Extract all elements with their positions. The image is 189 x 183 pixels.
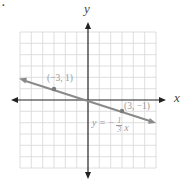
arrow-up-icon: [85, 22, 91, 29]
x-axis-label: x: [174, 90, 180, 106]
equation-minus: −: [109, 117, 115, 128]
arrow-right-icon: [159, 97, 166, 103]
arrow-down-icon: [85, 172, 91, 179]
line-arrow-right-icon: [148, 118, 156, 124]
equation-fraction: 1 3: [116, 117, 122, 134]
y-axis-label: y: [84, 1, 90, 17]
coordinate-plane: [0, 0, 189, 183]
problem-marker: ·: [1, 0, 6, 14]
arrow-left-icon: [11, 97, 18, 103]
point-label-neg3-1: (−3, 1): [47, 73, 73, 83]
equation-label: y = − 1 3 x: [92, 111, 129, 134]
fraction-denominator: 3: [117, 126, 121, 134]
equation-var: x: [124, 122, 128, 133]
equation-lhs: y =: [92, 117, 106, 128]
point-neg3-1: [52, 87, 56, 91]
point-label-3-neg1: (3, −1): [124, 101, 150, 111]
